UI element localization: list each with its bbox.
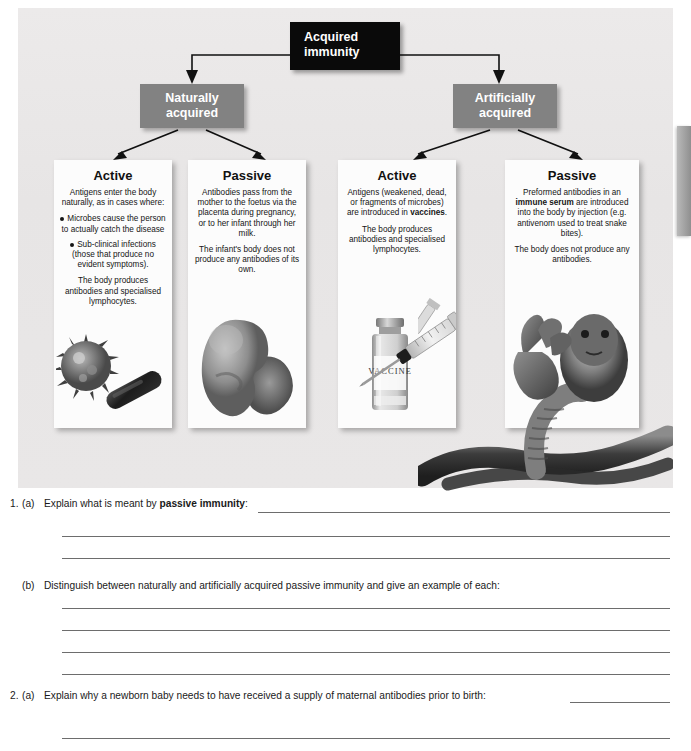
question-text-bold: passive immunity [160, 498, 246, 509]
question-text: Explain why a newborn baby needs to have… [44, 690, 486, 701]
panel-intro-text: Antigens enter the body naturally, as in… [60, 188, 166, 208]
branch-box-naturally-acquired: Naturally acquired [140, 84, 244, 128]
root-box-line-2: immunity [304, 45, 400, 60]
answer-line[interactable] [570, 702, 670, 703]
panel-closing-text: The body does not produce any antibodies… [511, 245, 633, 265]
page-edge-tab [677, 126, 691, 236]
panel-artificially-acquired-passive: Passive Preformed antibodies in an immun… [505, 160, 639, 428]
answer-line[interactable] [258, 512, 670, 513]
panel-intro-text: Preformed antibodies in an immune serum … [511, 188, 633, 239]
panel-intro-bold: immune serum [516, 198, 574, 207]
branch-artificially-line-2: acquired [453, 106, 557, 121]
panel-title: Passive [511, 168, 633, 183]
question-2a: 2. (a) Explain why a newborn baby needs … [0, 690, 486, 701]
branch-naturally-line-2: acquired [140, 106, 244, 121]
answer-line[interactable] [62, 674, 670, 675]
vial-label: VACCINE [368, 366, 412, 376]
questions-section: 1. (a) Explain what is meant by passive … [0, 492, 691, 751]
bullet-dot-icon [70, 243, 74, 247]
panel-naturally-acquired-passive: Passive Antibodies pass from the mother … [188, 160, 306, 428]
panel-closing-text: The body produces antibodies and special… [60, 276, 166, 307]
question-number: 2. [0, 690, 22, 701]
panel-closing-text: The body produces antibodies and special… [344, 225, 450, 256]
panel-intro-bold: vaccines [410, 208, 445, 217]
panel-intro-post: . [445, 208, 447, 217]
answer-line[interactable] [62, 738, 670, 739]
list-item: Sub-clinical infections (those that prod… [60, 240, 166, 271]
question-1b: (b) Distinguish between naturally and ar… [22, 580, 500, 591]
list-item: Microbes cause the person to actually ca… [60, 214, 166, 234]
answer-line[interactable] [62, 652, 670, 653]
virus-and-bacterium-illustration [56, 328, 172, 424]
question-text-pre: Explain what is meant by [44, 498, 160, 509]
branch-artificially-line-1: Artificially [453, 91, 557, 106]
question-text: Distinguish between naturally and artifi… [44, 580, 500, 591]
branch-naturally-line-1: Naturally [140, 91, 244, 106]
answer-line[interactable] [62, 630, 670, 631]
panel-naturally-acquired-active: Active Antigens enter the body naturally… [54, 160, 172, 428]
worksheet-page: Acquired immunity Naturally acquired Art… [0, 0, 691, 751]
root-box-acquired-immunity: Acquired immunity [290, 22, 400, 70]
question-number: 1. [0, 498, 22, 509]
acquired-immunity-diagram: Acquired immunity Naturally acquired Art… [18, 8, 673, 488]
question-letter: (b) [22, 580, 44, 591]
root-box-line-1: Acquired [304, 30, 400, 45]
panel-artificially-acquired-active: Active Antigens (weakened, dead, or frag… [338, 160, 456, 428]
panel-intro-text: Antigens (weakened, dead, or fragments o… [344, 188, 450, 219]
question-1a: 1. (a) Explain what is meant by passive … [0, 498, 248, 509]
panel-bullet-list: Microbes cause the person to actually ca… [60, 214, 166, 270]
bullet-dot-icon [60, 217, 64, 221]
panel-closing-text: The infant's body does not produce any a… [194, 245, 300, 276]
panel-title: Passive [194, 168, 300, 183]
answer-line[interactable] [62, 608, 670, 609]
question-letter: (a) [22, 690, 44, 701]
panel-title: Active [60, 168, 166, 183]
question-text: Explain what is meant by passive immunit… [44, 498, 248, 509]
bullet-text: Sub-clinical infections (those that prod… [72, 240, 156, 269]
panel-intro-pre: Preformed antibodies in an [523, 188, 621, 197]
panel-title: Active [344, 168, 450, 183]
answer-line[interactable] [62, 558, 670, 559]
bullet-text: Microbes cause the person to actually ca… [62, 214, 166, 233]
question-text-post: : [245, 498, 248, 509]
panel-intro-text: Antibodies pass from the mother to the f… [194, 188, 300, 239]
vaccine-vial-and-syringe-illustration: VACCINE [356, 310, 456, 428]
answer-line[interactable] [62, 536, 670, 537]
branch-box-artificially-acquired: Artificially acquired [453, 84, 557, 128]
question-letter: (a) [22, 498, 44, 509]
foetus-illustration [196, 314, 300, 422]
